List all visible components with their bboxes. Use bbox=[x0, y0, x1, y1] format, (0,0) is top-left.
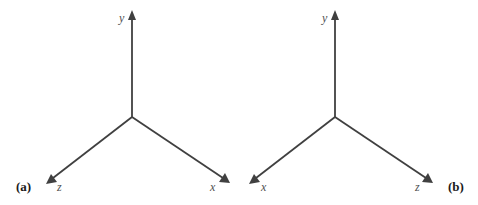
panel-b: y x z (b) bbox=[249, 10, 464, 194]
panel-b-y-axis: y bbox=[321, 10, 339, 117]
x-axis-label: x bbox=[260, 180, 267, 194]
z-axis-line bbox=[53, 117, 132, 178]
panel-a-x-axis: x bbox=[132, 117, 230, 194]
diagram-svg: y z x (a) y bbox=[0, 0, 478, 205]
y-axis-label: y bbox=[118, 11, 125, 25]
coordinate-systems-figure: y z x (a) y bbox=[0, 0, 478, 205]
panel-a-y-axis: y bbox=[118, 10, 136, 117]
z-axis-line bbox=[335, 117, 426, 178]
panel-a: y z x (a) bbox=[16, 10, 230, 194]
x-axis-line bbox=[256, 117, 335, 178]
x-axis-label: x bbox=[209, 180, 216, 194]
z-axis-label: z bbox=[414, 180, 420, 194]
y-axis-label: y bbox=[321, 11, 328, 25]
arrow-head-icon bbox=[422, 173, 433, 183]
panel-b-x-axis: x bbox=[249, 117, 335, 194]
panel-b-label: (b) bbox=[448, 179, 464, 194]
arrow-head-icon bbox=[128, 10, 136, 20]
panel-a-label: (a) bbox=[16, 179, 31, 194]
z-axis-label: z bbox=[56, 180, 62, 194]
x-axis-line bbox=[132, 117, 223, 178]
panel-a-z-axis: z bbox=[46, 117, 132, 194]
arrow-head-icon bbox=[331, 10, 339, 20]
arrow-head-icon bbox=[219, 173, 230, 183]
panel-b-z-axis: z bbox=[335, 117, 433, 194]
